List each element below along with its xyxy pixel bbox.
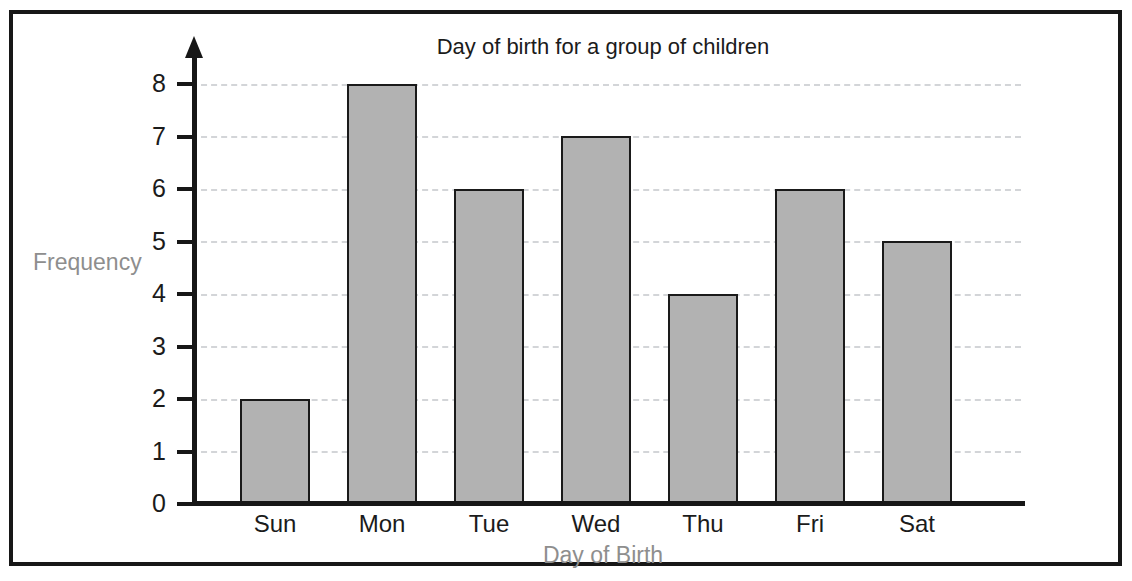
x-tick-label-wed: Wed bbox=[541, 511, 651, 536]
x-tick-label-sun: Sun bbox=[220, 511, 330, 536]
y-tick-label-6: 6 bbox=[126, 176, 166, 201]
bar-thu[interactable] bbox=[668, 294, 738, 506]
y-tick-mark-8 bbox=[177, 82, 193, 86]
x-tick-label-thu: Thu bbox=[648, 511, 758, 536]
y-tick-mark-6 bbox=[177, 187, 193, 191]
y-tick-mark-7 bbox=[177, 135, 193, 139]
bar-sat[interactable] bbox=[882, 241, 952, 506]
y-tick-mark-4 bbox=[177, 292, 193, 296]
y-tick-label-2: 2 bbox=[126, 386, 166, 411]
chart-frame: 0 1 2 3 4 5 6 7 8 Sun Mon Tue Wed Thu Fr… bbox=[9, 10, 1122, 566]
y-tick-mark-0 bbox=[177, 502, 193, 506]
bar-mon[interactable] bbox=[347, 84, 417, 506]
y-tick-label-3: 3 bbox=[126, 334, 166, 359]
gridline-8 bbox=[191, 84, 1021, 86]
x-axis-line bbox=[192, 501, 1025, 506]
y-tick-label-7: 7 bbox=[126, 124, 166, 149]
y-tick-mark-5 bbox=[177, 240, 193, 244]
chart-screenshot: 0 1 2 3 4 5 6 7 8 Sun Mon Tue Wed Thu Fr… bbox=[0, 0, 1132, 581]
plot-area: 0 1 2 3 4 5 6 7 8 Sun Mon Tue Wed Thu Fr… bbox=[13, 14, 1118, 562]
x-axis-title: Day of Birth bbox=[453, 543, 753, 568]
x-tick-label-sat: Sat bbox=[862, 511, 972, 536]
bar-sun[interactable] bbox=[240, 399, 310, 506]
bar-wed[interactable] bbox=[561, 136, 631, 506]
y-tick-label-4: 4 bbox=[126, 281, 166, 306]
x-tick-label-mon: Mon bbox=[327, 511, 437, 536]
y-tick-label-8: 8 bbox=[126, 71, 166, 96]
y-axis-title: Frequency bbox=[33, 250, 173, 275]
y-tick-mark-1 bbox=[177, 450, 193, 454]
x-tick-label-fri: Fri bbox=[755, 511, 865, 536]
x-tick-label-tue: Tue bbox=[434, 511, 544, 536]
bar-tue[interactable] bbox=[454, 189, 524, 506]
y-tick-label-0: 0 bbox=[126, 491, 166, 516]
y-tick-label-1: 1 bbox=[126, 439, 166, 464]
y-axis-arrow-icon bbox=[185, 36, 203, 58]
y-axis-line bbox=[192, 56, 197, 504]
bar-fri[interactable] bbox=[775, 189, 845, 506]
chart-title: Day of birth for a group of children bbox=[303, 35, 903, 59]
y-tick-mark-3 bbox=[177, 345, 193, 349]
y-tick-mark-2 bbox=[177, 397, 193, 401]
